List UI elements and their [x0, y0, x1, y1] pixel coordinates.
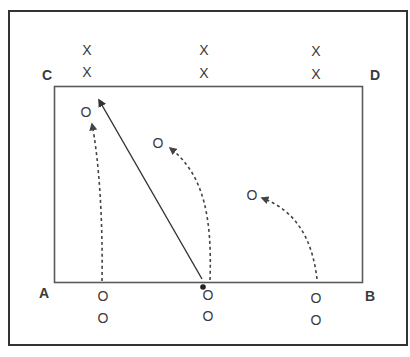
corner-label-d: D [370, 67, 380, 83]
run-path-middle [170, 148, 210, 280]
attacker-marker: O [98, 310, 109, 326]
run-path-left [92, 124, 102, 281]
attacker-target-marker: O [153, 135, 164, 151]
drill-diagram: A B C D X X X X X X O O O O O O O O O [0, 0, 410, 357]
attacker-target-marker: O [81, 104, 92, 120]
attacker-marker: O [98, 288, 109, 304]
corner-label-c: C [42, 67, 52, 83]
defender-marker: X [199, 65, 209, 81]
defender-marker: X [311, 66, 321, 82]
attacker-marker: O [311, 312, 322, 328]
corner-label-b: B [365, 288, 375, 304]
field-rectangle [55, 87, 363, 283]
pass-arrow [99, 100, 202, 279]
attacker-marker: O [203, 308, 214, 324]
attacker-marker: O [203, 287, 214, 303]
run-path-right [262, 198, 317, 279]
attacker-marker: O [311, 290, 322, 306]
defender-marker: X [82, 42, 92, 58]
defender-marker: X [199, 42, 209, 58]
defender-marker: X [311, 43, 321, 59]
attacker-target-marker: O [247, 187, 258, 203]
defender-marker: X [82, 64, 92, 80]
corner-label-a: A [39, 285, 49, 301]
